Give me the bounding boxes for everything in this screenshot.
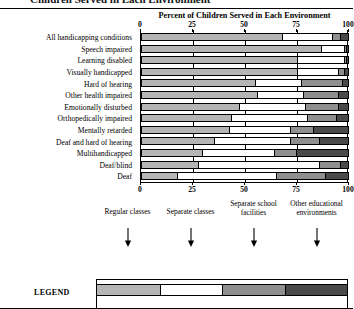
- top-rule: [0, 8, 353, 9]
- category-label: Deaf/blind: [0, 161, 132, 170]
- bar-segment: [231, 115, 307, 121]
- category-label: Deaf: [0, 172, 132, 181]
- category-label: Speech impaired: [0, 45, 132, 54]
- bar-segment: [290, 127, 313, 133]
- legend-swatch-bar: [96, 284, 348, 296]
- category-labels: All handicapping conditionsSpeech impair…: [0, 30, 136, 182]
- callout-arrow-icon: [250, 228, 257, 248]
- x-tick-label: 100: [342, 20, 353, 29]
- bar-segment: [340, 34, 348, 40]
- bar-segment: [336, 115, 348, 121]
- bar-segment: [346, 46, 348, 52]
- bar-segment: [297, 69, 338, 75]
- x-tick-label: 50: [240, 185, 248, 194]
- bar-segment: [142, 69, 297, 75]
- callout-arrow-icon: [124, 228, 131, 248]
- bar-segment: [142, 92, 257, 98]
- x-tick-label: 75: [292, 185, 300, 194]
- x-tick-label: 0: [138, 185, 142, 194]
- bar-segment: [346, 57, 348, 63]
- bar-row: [141, 91, 349, 99]
- bar-segment: [142, 127, 229, 133]
- bar-row: [141, 103, 349, 111]
- callout-arrow-icon: [313, 228, 320, 248]
- bar-segment: [282, 34, 331, 40]
- x-tick-label: 0: [138, 20, 142, 29]
- bar-segment: [313, 127, 348, 133]
- top-axis: 0255075100: [0, 20, 353, 30]
- bar-segment: [142, 34, 282, 40]
- bar-row: [141, 137, 349, 145]
- bar-row: [141, 45, 349, 53]
- bar-segment: [202, 150, 274, 156]
- category-label: Orthopedically impaired: [0, 114, 132, 123]
- bar-segment: [198, 162, 320, 168]
- bar-segment: [239, 104, 305, 110]
- chart-title: Percent of Children Served in Each Envir…: [136, 11, 353, 20]
- bar-segment: [301, 80, 342, 86]
- bar-row: [141, 68, 349, 76]
- bar-segment: [142, 104, 239, 110]
- bottom-axis: 0255075100: [140, 182, 348, 194]
- x-tick-label: 100: [342, 185, 353, 194]
- bar-segment: [342, 80, 348, 86]
- bar-segment: [340, 162, 348, 168]
- bar-row: [141, 33, 349, 41]
- legend-callouts: Regular classesSeparate classesSeparate …: [100, 196, 353, 248]
- x-tick-label: 25: [188, 20, 196, 29]
- cropped-header-text: Children Served in Each Environment: [30, 0, 211, 5]
- bar-segment: [229, 127, 291, 133]
- bar-segment: [338, 104, 348, 110]
- bar-segment: [307, 115, 336, 121]
- legend-swatch: [222, 285, 285, 295]
- bar-segment: [255, 80, 300, 86]
- bar-segment: [142, 138, 214, 144]
- bar-row: [141, 79, 349, 87]
- bar-segment: [142, 173, 177, 179]
- legend-callout-label: Separate school facilities: [223, 200, 285, 217]
- x-tick-label: 25: [188, 185, 196, 194]
- category-label: Deaf and hard of hearing: [0, 138, 132, 147]
- category-label: Multihandicapped: [0, 149, 132, 158]
- bar-segment: [325, 173, 348, 179]
- bar-segment: [297, 57, 344, 63]
- bar-segment: [142, 115, 231, 121]
- category-label: Visually handicapped: [0, 68, 132, 77]
- bar-segment: [276, 173, 325, 179]
- legend-title: LEGEND: [34, 288, 70, 297]
- bar-segment: [142, 46, 321, 52]
- legend-swatch: [285, 285, 348, 295]
- legend-callout-label: Regular classes: [97, 208, 159, 217]
- bar-segment: [142, 80, 255, 86]
- x-tick-label: 50: [240, 20, 248, 29]
- bar-segment: [177, 173, 276, 179]
- bar-segment: [303, 92, 338, 98]
- bar-segment: [142, 162, 198, 168]
- bar-segment: [257, 92, 302, 98]
- bar-segment: [305, 104, 338, 110]
- bar-segment: [319, 138, 348, 144]
- bar-segment: [319, 162, 340, 168]
- bar-segment: [142, 57, 297, 63]
- category-label: All handicapping conditions: [0, 33, 132, 42]
- category-label: Other health impaired: [0, 91, 132, 100]
- x-tick-label: 75: [292, 20, 300, 29]
- bar-segment: [214, 138, 290, 144]
- bar-segment: [321, 46, 344, 52]
- bar-row: [141, 149, 349, 157]
- legend-callout-label: Other educational environments: [286, 200, 348, 217]
- category-label: Hard of hearing: [0, 80, 132, 89]
- category-label: Emotionally disturbed: [0, 103, 132, 112]
- bar-segment: [344, 69, 348, 75]
- bar-row: [141, 172, 349, 180]
- bar-row: [141, 161, 349, 169]
- bar-segment: [290, 138, 319, 144]
- bar-row: [141, 126, 349, 134]
- callout-arrow-icon: [187, 228, 194, 248]
- category-label: Learning disabled: [0, 56, 132, 65]
- legend-callout-label: Separate classes: [160, 208, 222, 217]
- bar-rows: [141, 30, 349, 182]
- plot-area: [140, 30, 348, 182]
- bar-segment: [274, 150, 297, 156]
